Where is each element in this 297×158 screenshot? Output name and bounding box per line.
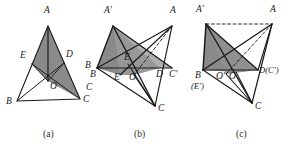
label-c-A-prime: A′ [196,5,204,15]
caption-panel-c: (c) [236,130,247,140]
label-c-O-prime: O′ [216,72,225,82]
label-c-D-C-prime: D(C′) [259,66,279,75]
label-c-B: B [195,71,201,81]
geometry-figure-board: A B C D E O B A′ A B C C′ D E E′ [0,0,297,158]
caption-panel-a: (a) [43,130,54,140]
edge-A-D [258,24,272,70]
label-c-C: C [255,102,261,112]
caption-panel-b: (b) [134,130,145,140]
label-c-A: A [270,5,276,15]
label-c-E-prime: (E′) [191,82,204,91]
label-c-O: O [229,72,236,82]
